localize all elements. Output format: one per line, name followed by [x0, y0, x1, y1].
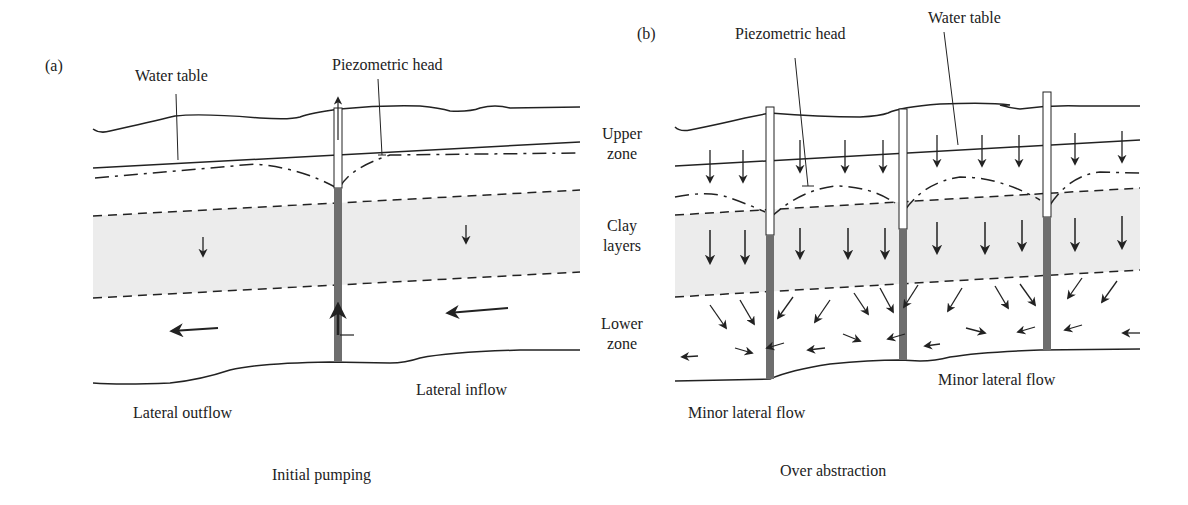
lateral-outflow-label: Lateral outflow [133, 405, 232, 421]
well-screen-b1 [766, 235, 774, 379]
caption-over-abstraction: Over abstraction [780, 463, 886, 479]
clay-layers-label: Clay layers [592, 216, 652, 256]
lower-zone-label: Lower zone [592, 314, 652, 354]
well-screen-b2 [899, 229, 907, 360]
caption-initial-pumping: Initial pumping [272, 467, 371, 483]
panel-a-tag: (a) [45, 58, 63, 74]
lateral-inflow-label: Lateral inflow [416, 382, 507, 398]
minor-lateral-flow-label-left: Minor lateral flow [688, 405, 805, 421]
panel-a [93, 79, 580, 384]
well-casing-b2 [899, 109, 907, 229]
well-screen-a [334, 188, 342, 362]
aquifer-base-b [675, 349, 1140, 381]
water-table-label-a: Water table [135, 68, 208, 84]
water-table-label-b: Water table [928, 10, 1001, 26]
well-casing-b3 [1043, 92, 1051, 217]
piezometric-head-label-b: Piezometric head [735, 26, 846, 42]
panel-b [675, 32, 1140, 381]
minor-lateral-flow-label-right: Minor lateral flow [938, 372, 1055, 388]
well-casing-b1 [766, 107, 774, 235]
well-screen-b3 [1043, 217, 1051, 350]
piezometric-head-label-a: Piezometric head [332, 57, 443, 73]
upper-zone-label: Upper zone [592, 124, 652, 164]
panel-b-tag: (b) [637, 26, 656, 42]
